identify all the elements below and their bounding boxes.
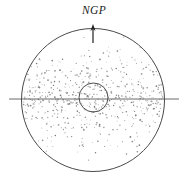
halo-object-dot xyxy=(57,117,59,119)
halo-object-dot xyxy=(136,63,137,64)
halo-object-dot xyxy=(65,110,66,111)
halo-object-dot xyxy=(63,129,64,130)
halo-object-dot xyxy=(117,117,119,119)
halo-object-dot xyxy=(34,104,35,105)
halo-object-dot xyxy=(133,123,134,124)
halo-object-dot xyxy=(122,77,124,79)
halo-object-dot xyxy=(47,130,48,131)
halo-object-dot xyxy=(144,113,145,114)
halo-object-dot xyxy=(143,108,144,109)
halo-object-dot xyxy=(42,95,43,96)
halo-object-dot xyxy=(64,132,65,133)
halo-object-dot xyxy=(117,121,118,122)
halo-object-dot xyxy=(33,106,34,107)
halo-object-dot xyxy=(140,92,142,94)
halo-object-dot xyxy=(133,85,134,86)
halo-object-dot xyxy=(87,105,88,106)
halo-object-dot xyxy=(57,103,58,104)
halo-object-dot xyxy=(96,94,97,95)
halo-object-dot xyxy=(30,105,32,107)
halo-object-dot xyxy=(73,91,74,92)
halo-object-dot xyxy=(32,92,33,93)
halo-object-dot xyxy=(68,84,69,85)
halo-object-dot xyxy=(96,76,97,77)
halo-object-dot xyxy=(84,55,85,56)
halo-object-dot xyxy=(131,126,132,127)
halo-object-dot xyxy=(67,122,69,124)
halo-object-dot xyxy=(112,70,113,71)
halo-object-dot xyxy=(145,125,146,126)
halo-object-dot xyxy=(56,109,57,110)
halo-object-dot xyxy=(27,91,28,92)
halo-object-dot xyxy=(117,113,118,114)
halo-object-dot xyxy=(127,115,128,116)
halo-object-dot xyxy=(88,97,89,98)
halo-object-dot xyxy=(124,120,125,121)
halo-object-dot xyxy=(88,76,90,78)
halo-object-dot xyxy=(98,104,99,105)
halo-object-dot xyxy=(87,95,89,97)
halo-object-dot xyxy=(99,90,100,91)
halo-object-dot xyxy=(50,44,51,45)
halo-object-dot xyxy=(45,112,46,113)
halo-object-dot xyxy=(121,81,122,82)
halo-object-dot xyxy=(139,79,140,80)
halo-object-dot xyxy=(68,100,69,101)
halo-object-dot xyxy=(35,91,36,92)
halo-object-dot xyxy=(83,146,84,147)
halo-object-dot xyxy=(148,124,149,125)
halo-object-dot xyxy=(52,65,53,66)
halo-object-dot xyxy=(57,88,58,89)
halo-object-dot xyxy=(105,114,107,116)
halo-object-dot xyxy=(24,97,26,99)
halo-object-dot xyxy=(120,60,121,61)
halo-object-dot xyxy=(108,105,109,106)
halo-object-dot xyxy=(133,118,134,119)
halo-object-dot xyxy=(156,103,157,104)
halo-object-dot xyxy=(57,113,59,115)
halo-object-dot xyxy=(120,71,122,73)
halo-object-dot xyxy=(50,126,51,127)
halo-object-dot xyxy=(96,68,98,70)
halo-object-dot xyxy=(131,102,133,104)
halo-object-dot xyxy=(82,82,83,83)
halo-object-dot xyxy=(95,123,97,125)
halo-object-dot xyxy=(137,92,138,93)
halo-object-dot xyxy=(61,107,63,109)
halo-object-dot xyxy=(57,110,58,111)
halo-object-dot xyxy=(89,56,90,57)
halo-object-dot xyxy=(51,60,53,62)
halo-object-dot xyxy=(73,102,74,103)
halo-object-dot xyxy=(80,73,81,74)
halo-object-dot xyxy=(153,90,155,92)
halo-object-dot xyxy=(118,70,119,71)
halo-object-dot xyxy=(77,99,78,100)
halo-object-dot xyxy=(97,86,98,87)
halo-object-dot xyxy=(37,118,38,119)
halo-object-dot xyxy=(111,92,113,94)
halo-object-dot xyxy=(79,87,81,89)
halo-object-dot xyxy=(81,103,82,104)
halo-object-dot xyxy=(40,101,42,103)
halo-object-dot xyxy=(102,82,103,83)
halo-object-dot xyxy=(66,92,68,94)
halo-object-dot xyxy=(51,141,52,142)
halo-object-dot xyxy=(146,107,147,108)
halo-object-dot xyxy=(63,117,65,119)
halo-object-dot xyxy=(126,74,127,75)
halo-object-dot xyxy=(81,55,82,56)
halo-object-dot xyxy=(145,67,147,69)
halo-object-dot xyxy=(95,116,96,117)
halo-object-dot xyxy=(47,146,48,147)
halo-object-dot xyxy=(135,115,137,117)
halo-object-dot xyxy=(81,70,83,72)
halo-object-dot xyxy=(84,124,85,125)
halo-object-dot xyxy=(140,82,141,83)
halo-object-dot xyxy=(52,110,54,112)
halo-object-dot xyxy=(47,137,48,138)
halo-object-dot xyxy=(35,117,37,119)
halo-object-dot xyxy=(134,59,135,60)
halo-object-dot xyxy=(58,124,60,126)
halo-object-dot xyxy=(26,112,27,113)
halo-object-dot xyxy=(126,153,127,154)
